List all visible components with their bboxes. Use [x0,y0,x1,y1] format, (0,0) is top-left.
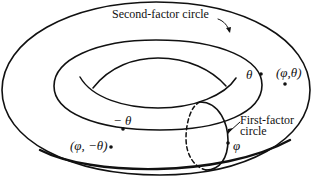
phi-neg-theta-point [109,145,113,149]
neg-theta-label: − θ [113,113,132,128]
first-factor-arrowhead [228,128,233,134]
phi-theta-point [283,82,287,86]
torus-outer-boundary [2,2,310,175]
first-factor-circle-back [186,102,206,170]
theta-label: θ [246,67,253,82]
torus-diagram: Second-factor circle First-factor circle… [0,0,311,185]
second-factor-arrowhead [226,27,231,33]
theta-point [259,72,263,76]
torus-hole-lower-arc [80,77,236,108]
first-factor-circle-front [200,102,228,170]
point-phi-neg-theta-label: (φ, −θ) [70,138,108,153]
point-phi-theta-label: (φ,θ) [276,65,302,80]
torus-hole-upper-arc [93,58,226,88]
second-factor-label: Second-factor circle [112,7,209,21]
phi-point [226,141,230,145]
phi-label: φ [233,138,240,153]
first-factor-label-line2: circle [240,124,267,138]
